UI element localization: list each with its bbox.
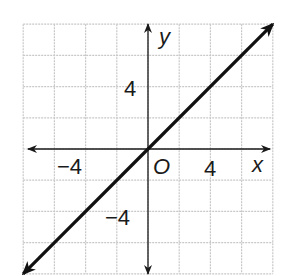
origin-label: O [153,154,170,179]
x-axis-label: x [251,152,264,177]
y-tick-label: 4 [124,76,136,101]
coordinate-plane: y x O −4 4 4 −4 [0,0,284,276]
x-tick-label: −4 [57,154,82,179]
x-tick-label: 4 [204,156,216,181]
y-tick-label: −4 [105,205,130,230]
y-axis-label: y [157,24,172,49]
